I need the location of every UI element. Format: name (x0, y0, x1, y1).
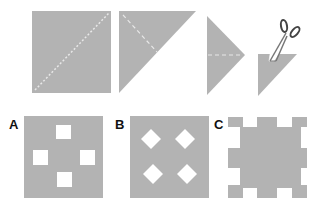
option-c-label: C (214, 118, 223, 131)
step-1-square (32, 11, 111, 93)
step-2-triangle (119, 11, 196, 93)
diagram-canvas (0, 0, 323, 203)
step-3-triangle (207, 16, 245, 95)
step-4-triangle (258, 54, 297, 96)
option-c-figure (228, 117, 307, 198)
option-a-figure (24, 116, 103, 198)
option-b-label: B (115, 118, 124, 131)
option-b-figure (130, 116, 209, 198)
option-a-label: A (9, 118, 18, 131)
